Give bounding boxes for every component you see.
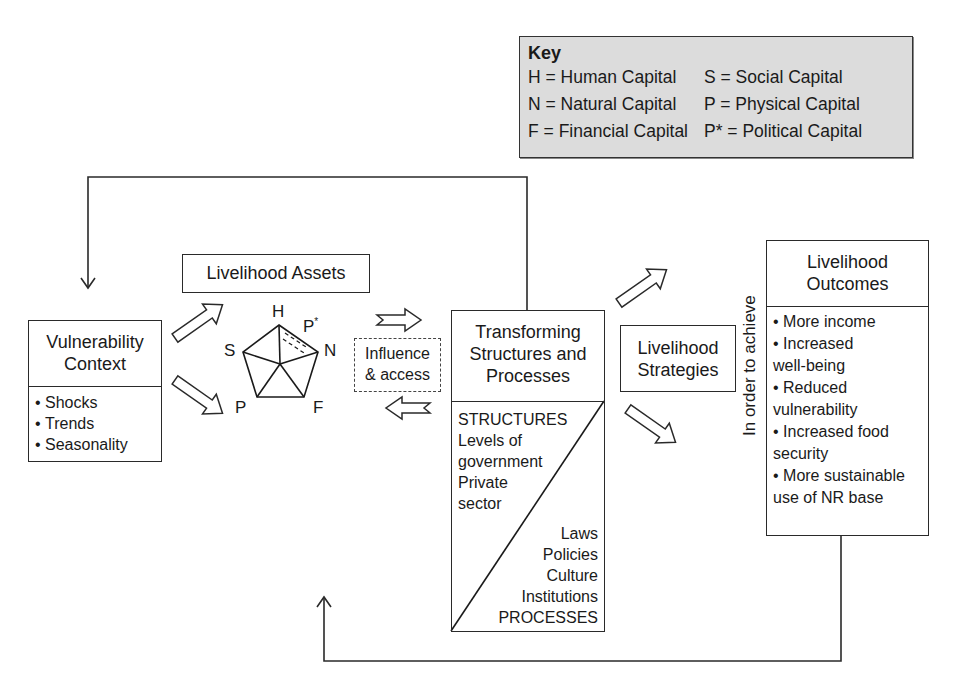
block-arrow-right-icon	[377, 309, 421, 331]
legend-entry-physical: P = Physical Capital	[670, 91, 904, 118]
transforming-title-line1: Transforming	[452, 321, 604, 343]
processes-list: Laws Policies Culture Institutions PROCE…	[498, 523, 598, 628]
pentagon-label-natural: N	[324, 341, 336, 361]
block-arrow-up-right-icon	[168, 295, 229, 348]
outcome-item: • Increased foodsecurity	[773, 421, 928, 465]
processes-item: Culture	[498, 565, 598, 586]
structures-item: Levels of	[458, 430, 567, 451]
pentagon-label-human: H	[272, 302, 284, 322]
structures-heading: STRUCTURES	[458, 409, 567, 430]
structures-list: STRUCTURES Levels of government Private …	[458, 409, 567, 514]
pentagon-label-physical: P	[235, 398, 246, 418]
structures-item: Private	[458, 472, 567, 493]
outcome-item: • More income	[773, 311, 928, 333]
livelihood-strategies-box: Livelihood Strategies	[620, 325, 736, 392]
pentagon-label-political: P*	[303, 316, 318, 337]
livelihood-assets-title: Livelihood Assets	[206, 263, 345, 283]
legend-entry-social: S = Social Capital	[670, 64, 904, 91]
livelihood-assets-box: Livelihood Assets	[182, 254, 370, 293]
outcome-item: • Reducedvulnerability	[773, 377, 928, 421]
processes-item: Institutions	[498, 586, 598, 607]
strategies-line2: Strategies	[621, 359, 735, 381]
outcome-item: • Increasedwell-being	[773, 333, 928, 377]
block-arrow-up-right-icon	[612, 260, 673, 313]
legend-entry-financial: F = Financial Capital	[528, 118, 658, 145]
strategies-line1: Livelihood	[621, 337, 735, 359]
block-arrow-down-right-icon	[621, 399, 682, 452]
legend-entry-human: H = Human Capital	[528, 64, 658, 91]
vulnerability-item: Seasonality	[35, 434, 161, 455]
transforming-structures-box: Transforming Structures and Processes ST…	[451, 310, 605, 632]
legend-key: Key H = Human Capital S = Social Capital…	[519, 36, 913, 158]
block-arrow-left-icon	[386, 397, 430, 419]
vulnerability-title-line1: Vulnerability	[29, 331, 161, 353]
vulnerability-item: Trends	[35, 413, 161, 434]
structures-item: sector	[458, 493, 567, 514]
vulnerability-title-line2: Context	[29, 353, 161, 375]
outcome-item: • More sustainableuse of NR base	[773, 465, 928, 509]
in-order-to-achieve-label: In order to achieve	[740, 295, 760, 436]
livelihood-outcomes-box: Livelihood Outcomes • More income • Incr…	[766, 240, 929, 536]
vulnerability-item: Shocks	[35, 392, 161, 413]
outcomes-title-line2: Outcomes	[767, 273, 928, 295]
influence-line1: Influence	[355, 343, 440, 364]
legend-entry-natural: N = Natural Capital	[528, 91, 658, 118]
legend-title: Key	[528, 42, 904, 64]
influence-line2: & access	[355, 364, 440, 385]
processes-item: Policies	[498, 544, 598, 565]
pentagon-label-financial: F	[313, 398, 323, 418]
transforming-title-line2: Structures and	[452, 343, 604, 365]
influence-access-box: Influence & access	[354, 338, 441, 392]
processes-item: Laws	[498, 523, 598, 544]
structures-item: government	[458, 451, 567, 472]
vulnerability-context-box: Vulnerability Context Shocks Trends Seas…	[28, 320, 162, 462]
transforming-title-line3: Processes	[452, 365, 604, 387]
pentagon-label-social: S	[224, 341, 235, 361]
processes-heading: PROCESSES	[498, 607, 598, 628]
outcomes-title-line1: Livelihood	[767, 251, 928, 273]
legend-entry-political: P* = Political Capital	[670, 118, 904, 145]
block-arrow-down-right-icon	[168, 370, 229, 423]
